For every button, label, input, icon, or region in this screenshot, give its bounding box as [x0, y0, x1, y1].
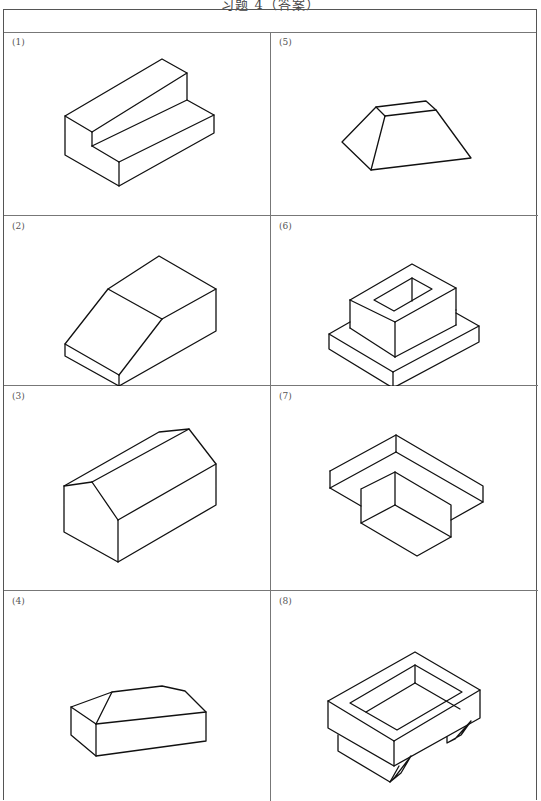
cell-4: (4)	[4, 591, 271, 801]
step-block-drawing	[4, 32, 271, 216]
cell-5: (5)	[271, 32, 538, 216]
header-row	[4, 10, 536, 33]
truncated-prism-drawing	[271, 32, 538, 216]
hipped-block-drawing	[4, 591, 271, 801]
inverted-t-block-drawing	[271, 386, 538, 591]
cell-6: (6)	[271, 216, 538, 386]
cell-8: (8)	[271, 591, 538, 801]
tray-with-feet-drawing	[271, 591, 538, 801]
cell-3: (3)	[4, 386, 271, 591]
cell-2: (2)	[4, 216, 271, 386]
gable-prism-drawing	[4, 386, 271, 591]
hollow-box-on-plate-drawing	[271, 216, 538, 386]
cell-7: (7)	[271, 386, 538, 591]
exercise-sheet: (1) (5) (2)	[3, 9, 537, 800]
chamfered-block-drawing	[4, 216, 271, 386]
cell-1: (1)	[4, 32, 271, 216]
